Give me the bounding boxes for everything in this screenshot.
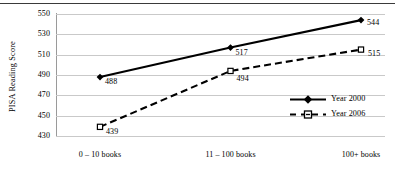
marker-square (97, 124, 102, 129)
chart-figure: PISA Reading Score 550530510490470450430… (0, 0, 395, 169)
marker-diamond (97, 74, 104, 81)
series-lines (0, 0, 395, 169)
data-label: 439 (106, 128, 118, 136)
legend-item-2[interactable]: Year 2006 (288, 107, 388, 122)
data-label: 488 (105, 78, 117, 86)
marker-diamond (227, 44, 234, 51)
data-label: 515 (368, 50, 380, 58)
data-label: 544 (367, 19, 379, 27)
legend-square-icon (288, 107, 328, 122)
legend-label: Year 2000 (331, 94, 365, 103)
chart-legend: Year 2000Year 2006 (288, 92, 388, 122)
marker-diamond (358, 17, 365, 24)
marker-square (228, 68, 233, 73)
legend-item-1[interactable]: Year 2000 (288, 92, 388, 107)
marker-square (358, 47, 363, 52)
data-label: 517 (236, 49, 248, 57)
legend-label: Year 2006 (331, 109, 365, 118)
legend-diamond-icon (288, 92, 328, 107)
data-label: 494 (237, 75, 249, 83)
